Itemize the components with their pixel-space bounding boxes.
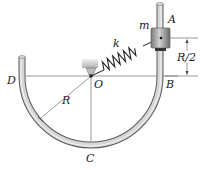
dimension-arrow-bottom <box>186 71 189 75</box>
tube-end-top <box>157 3 164 6</box>
label-C: C <box>86 152 95 165</box>
diagram-canvas: A m k R/2 B D O R C <box>0 0 200 170</box>
label-A: A <box>167 13 176 26</box>
label-k: k <box>113 37 120 50</box>
collar-bottom-ring <box>155 48 166 51</box>
label-R: R <box>61 94 70 107</box>
dimension-arrow-top <box>186 39 189 43</box>
pivot-support <box>82 59 98 68</box>
collar-attach-point <box>160 37 163 40</box>
label-B: B <box>165 78 174 91</box>
label-D: D <box>6 74 16 87</box>
label-m: m <box>139 19 149 32</box>
tube-end-left <box>19 56 26 59</box>
label-O: O <box>94 78 103 91</box>
label-R-half: R/2 <box>176 51 196 64</box>
